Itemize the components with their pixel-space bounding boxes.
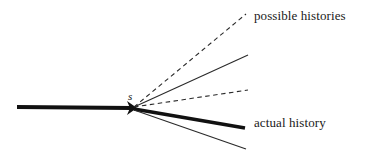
branching-histories-figure: s possible histories actual history: [0, 0, 376, 155]
actual-history-branch: [134, 109, 245, 128]
actual-history-label: actual history: [254, 115, 326, 131]
possible-history-branch-3: [134, 90, 248, 107]
possible-histories-label: possible histories: [254, 8, 346, 24]
possible-history-branch-2: [134, 55, 248, 107]
possible-history-branch-4: [134, 110, 246, 149]
incoming-history-line: [17, 107, 131, 108]
branch-point-label: s: [128, 90, 132, 102]
